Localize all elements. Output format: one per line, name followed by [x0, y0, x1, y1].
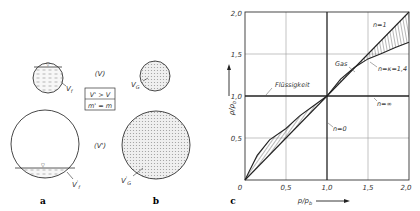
small-liquid-vessel: ▽	[30, 61, 70, 97]
panel-label-b: b	[153, 196, 159, 206]
panel-a: ▽ Vf ▽ V'f a	[10, 61, 82, 206]
svg-text:ρ/ρb: ρ/ρb	[228, 101, 237, 115]
large-gas-vessel	[122, 111, 190, 179]
svg-text:0,5: 0,5	[231, 135, 243, 143]
svg-text:0: 0	[238, 184, 243, 192]
label-vf: Vf	[66, 85, 74, 94]
svg-text:1,5: 1,5	[362, 184, 374, 192]
annotation-n-kappa: n=κ=1,4	[378, 65, 407, 73]
svg-text:1,5: 1,5	[231, 51, 243, 59]
annotation-liquid: Flüssigkeit	[275, 81, 310, 89]
svg-text:2,0: 2,0	[231, 10, 243, 18]
x-axis-arrowhead-icon	[344, 199, 350, 203]
leader-line	[266, 88, 272, 95]
y-axis-label: ρ/ρb	[228, 101, 237, 115]
middle-annotations: (V) V' > V m' = m (V')	[85, 70, 115, 150]
surface-marker-icon: ▽	[46, 61, 50, 67]
y-axis-arrowhead-icon	[227, 64, 231, 70]
annotation-n-infinity: n=∞	[377, 100, 392, 108]
volume-large-label: (V')	[94, 142, 106, 150]
label-vg: VG	[131, 81, 140, 90]
leader-line	[370, 62, 377, 67]
annotation-gas: Gas	[335, 60, 348, 68]
svg-text:0,5: 0,5	[280, 184, 292, 192]
panel-c-chart: Flüssigkeit Gas n=1 n=κ=1,4 n=∞ n=0 0,5 …	[227, 10, 412, 206]
figure-canvas: ▽ Vf ▽ V'f a (V) V' > V m' = m (V') VG V…	[0, 0, 420, 211]
annotation-n-0: n=0	[333, 125, 347, 133]
annotation-n1: n=1	[373, 21, 387, 29]
relation-volume: V' > V	[90, 91, 111, 99]
leader-line	[67, 172, 73, 179]
small-gas-vessel	[140, 61, 170, 91]
relation-mass: m' = m	[88, 102, 112, 110]
label-vf-prime: V'f	[72, 179, 81, 190]
surface-marker-icon: ▽	[41, 162, 45, 168]
volume-small-label: (V)	[95, 70, 106, 78]
x-axis-label: p/pb	[297, 197, 312, 206]
panel-label-a: a	[40, 196, 46, 206]
svg-text:1,0: 1,0	[321, 184, 333, 192]
panel-b: VG V'G b	[121, 61, 190, 206]
svg-text:2,0: 2,0	[400, 184, 412, 192]
panel-label-c: c	[230, 196, 236, 206]
svg-text:1,0: 1,0	[231, 93, 243, 101]
x-tick-labels: 0 0,5 1,0 1,5 2,0	[238, 184, 412, 192]
y-tick-labels: 0,5 1,0 1,5 2,0	[231, 10, 243, 143]
large-liquid-vessel: ▽	[10, 110, 82, 180]
label-vg-prime: V'G	[121, 175, 131, 186]
